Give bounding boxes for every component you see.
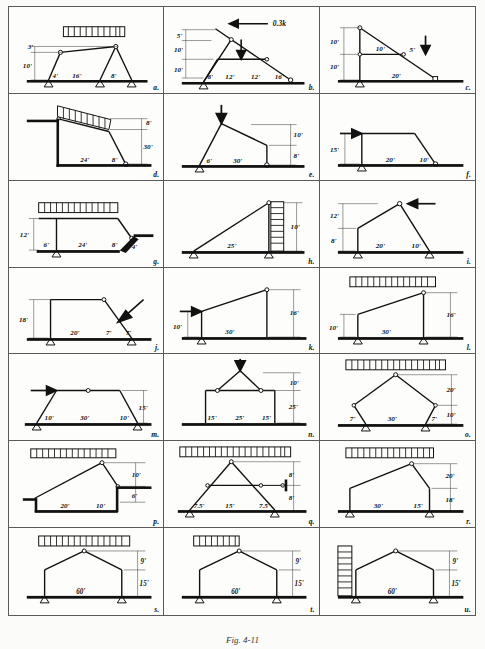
dim-g-8: 8'	[112, 241, 118, 249]
panel-label-g: g.	[153, 257, 159, 266]
dim-p-10b: 10'	[96, 502, 105, 510]
dim-e-30: 30'	[233, 157, 243, 165]
dim-c-20: 20'	[390, 72, 400, 80]
dim-j-7b: 7'	[126, 329, 132, 337]
figure-caption: Fig. 4-11	[0, 635, 485, 645]
dim-i-8: 8'	[331, 237, 337, 245]
dim-a-16: 16'	[72, 72, 81, 80]
dim-m-30: 30'	[79, 415, 89, 423]
panel-label-l: l.	[467, 343, 471, 352]
dim-t-60: 60'	[232, 588, 241, 596]
panel-m[interactable]: 15' 10' 30' 10' m.	[9, 354, 164, 441]
dim-m-15: 15'	[139, 405, 148, 413]
panel-label-u: u.	[465, 605, 471, 614]
dim-q-15: 15'	[226, 502, 235, 510]
panel-label-i: i.	[467, 257, 471, 266]
dim-r-20: 20'	[444, 473, 454, 481]
panel-label-m: m.	[151, 430, 159, 439]
dim-j-18: 18'	[19, 316, 28, 324]
dim-o-30: 30'	[386, 416, 396, 424]
dim-g-4: 4'	[131, 243, 138, 251]
dim-j-20: 20'	[69, 329, 79, 337]
panel-label-k: k.	[309, 343, 315, 352]
dim-b-12b: 12'	[251, 73, 260, 81]
panel-label-h: h.	[308, 257, 314, 266]
figure-sheet: 3' 10' 4' 16' 8' a.	[0, 0, 485, 649]
dim-t-15: 15'	[295, 580, 304, 588]
dim-l-16: 16'	[446, 311, 455, 319]
dim-l-30: 30'	[380, 328, 390, 336]
panel-u[interactable]: 9' 15' 60' u.	[320, 528, 475, 615]
dim-n-25h: 25'	[235, 415, 245, 423]
dim-b-16: 16'	[275, 73, 284, 81]
dim-r-15: 15'	[413, 502, 422, 510]
dim-a-4: 4'	[52, 72, 59, 80]
dim-g-24: 24'	[77, 241, 87, 249]
dim-s-9: 9'	[141, 558, 147, 566]
dim-q-75b: 7.5'	[259, 502, 270, 510]
dim-b-12a: 12'	[226, 73, 235, 81]
panel-label-s: s.	[154, 605, 159, 614]
dim-m-10a: 10'	[45, 415, 54, 423]
dim-b-10b: 10'	[174, 66, 183, 74]
dim-b-8: 8'	[208, 73, 214, 81]
dim-d-8a: 8'	[146, 118, 152, 126]
dim-n-25v: 25'	[288, 404, 298, 412]
panel-i[interactable]: 12' 8' 20' 10' i.	[320, 181, 475, 268]
dim-f-15: 15'	[330, 146, 339, 154]
load-b-03k: 0.3k	[273, 19, 286, 28]
panel-t[interactable]: 9' 15' 60' t.	[164, 528, 319, 615]
panel-e[interactable]: 10' 8' 6' 30' e.	[164, 94, 319, 181]
dim-l-10: 10'	[329, 324, 338, 332]
panel-label-n: n.	[308, 430, 314, 439]
panel-n[interactable]: 10' 25' 15' 25' 15' n.	[164, 354, 319, 441]
panel-f[interactable]: 15' 20' 10' f.	[320, 94, 475, 181]
dim-f-10: 10'	[419, 156, 428, 164]
panel-label-b: b.	[309, 83, 315, 92]
panel-g[interactable]: 12' 6' 24' 8' 4' g.	[9, 181, 164, 268]
dim-n-10: 10'	[290, 379, 299, 387]
dim-c-5: 5'	[409, 46, 415, 54]
dim-k-10: 10'	[173, 323, 182, 331]
dim-e-6: 6'	[207, 157, 213, 165]
dim-s-60: 60'	[76, 588, 85, 596]
panel-q[interactable]: 8' 8' 7.5' 15' 7.5' q.	[164, 441, 319, 528]
dim-n-15b: 15'	[262, 415, 271, 423]
panel-label-o: o.	[465, 430, 471, 439]
dim-t-9: 9'	[296, 558, 302, 566]
panel-b[interactable]: 0.3k 5' 10' 10' 8' 12' 12' 16' b.	[164, 7, 319, 94]
panel-r[interactable]: 20' 18' 30' 15' r.	[320, 441, 475, 528]
panel-a[interactable]: 3' 10' 4' 16' 8' a.	[9, 7, 164, 94]
panel-label-t: t.	[310, 605, 314, 614]
dim-b-5: 5'	[177, 32, 183, 40]
panel-label-d: d.	[153, 170, 159, 179]
dim-d-30: 30'	[143, 143, 153, 151]
dim-r-30: 30'	[372, 502, 382, 510]
dim-h-10: 10'	[291, 223, 300, 231]
panel-l[interactable]: 10' 30' 16' l.	[320, 268, 475, 355]
dim-e-10: 10'	[294, 131, 303, 139]
dim-b-10a: 10'	[174, 46, 183, 54]
panel-o[interactable]: 20' 10' 7' 30' 7' o.	[320, 354, 475, 441]
panel-p[interactable]: 10' 6' 20' 10' p.	[9, 441, 164, 528]
panel-k[interactable]: 10' 30' 16' k.	[164, 268, 319, 355]
panel-label-a: a.	[153, 83, 159, 92]
dim-u-15: 15'	[451, 580, 460, 588]
dim-o-7b: 7'	[431, 416, 437, 424]
panel-label-f: f.	[466, 170, 471, 179]
panel-c[interactable]: 10' 10' 10' 5' 20' c.	[320, 7, 475, 94]
dim-p-20: 20'	[59, 502, 69, 510]
panel-label-c: c.	[465, 83, 471, 92]
dim-g-6: 6'	[44, 241, 50, 249]
dim-o-7a: 7'	[350, 416, 356, 424]
dim-c-10c: 10'	[375, 45, 384, 53]
panel-d[interactable]: 8' 30' 24' 8' d.	[9, 94, 164, 181]
dim-q-8b: 8'	[289, 495, 295, 503]
panel-j[interactable]: 18' 20' 7' 7' j.	[9, 268, 164, 355]
dim-d-24: 24'	[79, 156, 89, 164]
dim-u-9: 9'	[452, 558, 458, 566]
dim-c-10a: 10'	[330, 38, 339, 46]
panel-label-j: j.	[155, 343, 159, 352]
panel-s[interactable]: 9' 15' 60' s.	[9, 528, 164, 615]
panel-h[interactable]: 10' 25' h.	[164, 181, 319, 268]
